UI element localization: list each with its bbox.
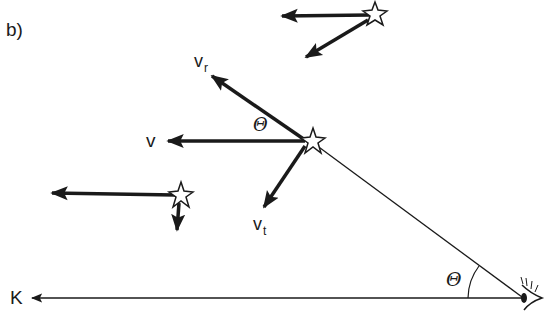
velocity-arrow xyxy=(52,193,175,195)
diagram-canvas: b) vr v vt Θ Θ K xyxy=(0,0,548,324)
star-group-top xyxy=(282,2,387,57)
star-group-left xyxy=(52,182,193,230)
label-v-tangential: vt xyxy=(253,215,266,233)
label-v: v xyxy=(146,131,156,150)
star-group-center xyxy=(168,76,325,207)
v-tangential-arrow xyxy=(264,146,305,207)
label-theta-observer: Θ xyxy=(446,270,462,289)
label-k: K xyxy=(10,288,23,307)
label-v-tangential-sub: t xyxy=(263,224,266,238)
panel-label: b) xyxy=(6,20,23,39)
velocity-arrow xyxy=(306,20,368,57)
velocity-arrow xyxy=(177,203,179,230)
label-theta-star: Θ xyxy=(253,116,268,134)
label-v-radial-sub: r xyxy=(204,61,208,75)
line-of-sight xyxy=(312,142,522,297)
velocity-arrow xyxy=(282,15,370,16)
angle-arc xyxy=(468,266,479,298)
star-icon xyxy=(169,182,193,207)
label-v-radial: vr xyxy=(194,52,208,70)
eye-icon xyxy=(521,277,542,310)
label-v-radial-main: v xyxy=(194,51,203,71)
label-v-tangential-main: v xyxy=(253,214,262,234)
